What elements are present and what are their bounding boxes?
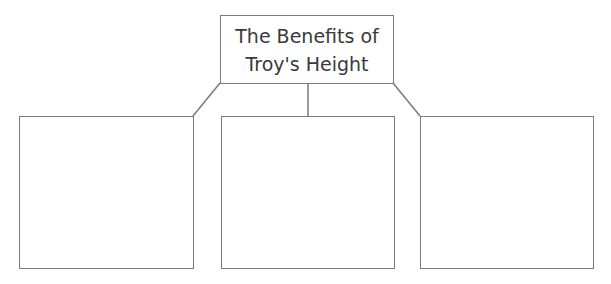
title-box: The Benefits of Troy's Height xyxy=(220,15,394,84)
branch-box-left[interactable] xyxy=(19,116,194,269)
branch-box-right[interactable] xyxy=(420,116,594,269)
connector-right xyxy=(393,83,420,116)
title-text: The Benefits of Troy's Height xyxy=(235,22,379,78)
connector-left xyxy=(193,83,220,116)
branch-box-middle[interactable] xyxy=(221,116,395,269)
